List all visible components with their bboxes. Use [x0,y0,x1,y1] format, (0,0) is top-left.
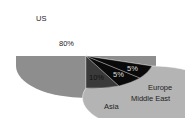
pie-chart: US 80% 10% 5% 5% Europe Middle East Asia [0,0,185,118]
label-middle-east: Middle East [131,95,170,103]
value-middle-east: 5% [113,71,124,79]
label-us: US [36,15,46,23]
value-asia: 10% [89,74,104,82]
value-us: 80% [59,40,74,48]
label-asia: Asia [104,103,119,111]
value-europe: 5% [127,65,138,73]
label-europe: Europe [148,84,172,92]
